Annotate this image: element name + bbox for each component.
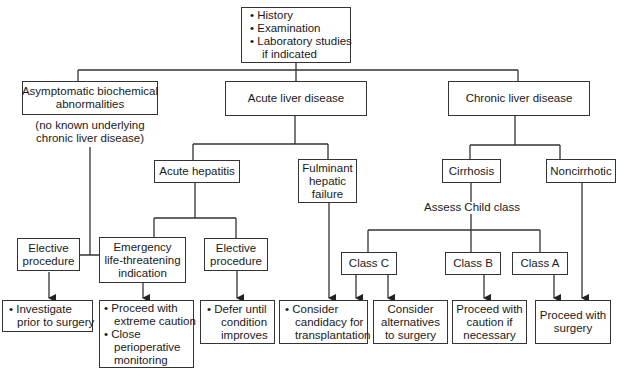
bullet-icon: • <box>9 303 13 315</box>
consider-alternatives-box: Consider alternatives to surgery <box>373 300 448 344</box>
bullet-icon: • <box>250 9 254 21</box>
investigate-outcome-box: • Investigate prior to surgery <box>2 300 93 332</box>
fulminant-failure-box: Fulminant hepatic failure <box>298 159 357 203</box>
assess-child-class-label: Assess Child class <box>424 201 520 214</box>
lab-studies-item-cont: if indicated <box>250 48 350 61</box>
asymptomatic-box: Asymptomatic biochemical abnormalities <box>22 81 158 115</box>
chronic-liver-disease-box: Chronic liver disease <box>448 81 590 116</box>
history-item: History <box>257 9 293 21</box>
initial-assessment-box: • History • Examination • Laboratory stu… <box>241 7 351 63</box>
noncirrhotic-box: Noncirrhotic <box>546 159 616 183</box>
elective-procedure-box-2: Elective procedure <box>204 238 268 271</box>
acute-liver-disease-box: Acute liver disease <box>225 81 367 116</box>
bullet-icon: • <box>104 328 108 340</box>
cirrhosis-box: Cirrhosis <box>442 159 501 183</box>
elective-procedure-box-1: Elective procedure <box>17 238 80 271</box>
transplant-candidacy-box: • Consider candidacy for transplantation <box>279 300 368 344</box>
proceed-with-surgery-box: Proceed with surgery <box>535 300 611 344</box>
defer-outcome-box: • Defer until condition improves <box>200 300 275 344</box>
bullet-icon: • <box>250 35 254 47</box>
bullet-icon: • <box>104 302 108 314</box>
acute-hepatitis-box: Acute hepatitis <box>154 160 240 183</box>
class-c-box: Class C <box>341 252 397 275</box>
examination-item: Examination <box>257 22 320 34</box>
proceed-extreme-caution-box: • Proceed with extreme caution • Close p… <box>99 300 194 368</box>
liver-disease-flowchart: • History • Examination • Laboratory stu… <box>0 0 624 374</box>
bullet-icon: • <box>285 303 289 315</box>
class-a-box: Class A <box>512 252 568 275</box>
lab-studies-item: Laboratory studies <box>257 35 352 47</box>
asymptomatic-note: (no known underlying chronic liver disea… <box>28 119 152 145</box>
bullet-icon: • <box>250 22 254 34</box>
proceed-caution-if-necessary-box: Proceed with caution if necessary <box>452 300 527 344</box>
bullet-icon: • <box>207 303 211 315</box>
emergency-indication-box: Emergency life-threatening indication <box>99 237 186 283</box>
class-b-box: Class B <box>445 252 501 275</box>
